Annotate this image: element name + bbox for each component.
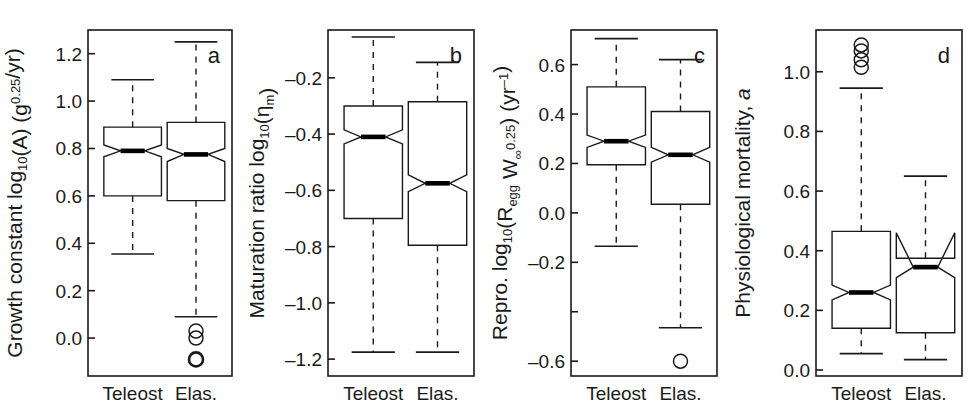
y-tick-label: 1.0 xyxy=(56,91,82,112)
y-tick-label: 0.8 xyxy=(56,138,82,159)
plot-frame xyxy=(88,30,232,376)
y-tick-label: 0.2 xyxy=(56,281,82,302)
x-category-label: Elas. xyxy=(659,383,701,404)
y-tick-label: 0.4 xyxy=(784,241,811,262)
panel-chart-b: –0.2–0.4–0.6–0.8–1.0–1.2TeleostElas.bMat… xyxy=(242,0,485,419)
y-tick-label: –1.0 xyxy=(285,293,322,314)
x-category-label: Elas. xyxy=(416,383,458,404)
boxplot-teleost xyxy=(104,80,162,254)
box-outline xyxy=(344,106,402,219)
panel-letter: b xyxy=(450,43,462,68)
x-category-label: Teleost xyxy=(343,383,404,404)
axis-title: Growth constant log10(A) (g0.25/yr) xyxy=(1,48,31,357)
box-outline xyxy=(104,127,162,196)
panel-c: 0.60.40.20.0–0.2–0.6TeleostElas.cRepro. … xyxy=(485,0,728,419)
y-tick-label: 0.6 xyxy=(56,186,82,207)
outlier-point xyxy=(189,352,203,366)
y-tick-label: 0.0 xyxy=(56,328,82,349)
y-tick-label: 0.2 xyxy=(784,300,810,321)
axis-title: Maturation ratio log10(ηm) xyxy=(245,88,278,319)
y-tick-label: 0.6 xyxy=(539,55,565,76)
panel-chart-a: 0.00.20.40.60.81.01.2TeleostElas.aGrowth… xyxy=(0,0,244,419)
y-tick-label: –0.2 xyxy=(528,252,565,273)
y-tick-label: 0.0 xyxy=(784,360,810,381)
y-tick-label: –0.6 xyxy=(528,351,565,372)
y-tick-label: 0.4 xyxy=(56,233,83,254)
boxplot-elas xyxy=(651,60,709,369)
box-outline xyxy=(896,233,954,333)
panel-chart-c: 0.60.40.20.0–0.2–0.6TeleostElas.cRepro. … xyxy=(485,0,728,419)
y-tick-label: –0.2 xyxy=(285,68,322,89)
y-tick-label: –0.6 xyxy=(285,180,322,201)
y-tick-label: –0.8 xyxy=(285,237,322,258)
plot-frame xyxy=(328,30,474,376)
boxplot-teleost xyxy=(344,37,402,352)
y-tick-label: 0.8 xyxy=(784,121,810,142)
y-axis-ticks: 0.00.20.40.60.81.0 xyxy=(784,62,823,381)
panel-b: –0.2–0.4–0.6–0.8–1.0–1.2TeleostElas.bMat… xyxy=(242,0,485,419)
box-outline xyxy=(651,112,709,205)
box-outline xyxy=(832,231,890,328)
x-category-label: Elas. xyxy=(904,383,946,404)
y-tick-label: 0.0 xyxy=(539,203,565,224)
panel-letter: c xyxy=(694,43,705,68)
y-tick-label: 0.2 xyxy=(539,153,565,174)
y-tick-label: –0.4 xyxy=(285,124,322,145)
panel-d: 0.00.20.40.60.81.0TeleostElas.dPhysiolog… xyxy=(728,0,973,419)
outlier-point xyxy=(674,354,688,368)
panel-letter: d xyxy=(938,43,950,68)
panel-chart-d: 0.00.20.40.60.81.0TeleostElas.dPhysiolog… xyxy=(728,0,973,419)
y-tick-label: 1.2 xyxy=(56,44,82,65)
x-category-label: Teleost xyxy=(103,383,164,404)
figure-root: 0.00.20.40.60.81.01.2TeleostElas.aGrowth… xyxy=(0,0,973,419)
y-axis-ticks: 0.00.20.40.60.81.01.2 xyxy=(56,44,95,349)
panel-letter: a xyxy=(208,43,221,68)
box-outline xyxy=(587,87,645,165)
y-tick-label: 0.6 xyxy=(784,181,810,202)
boxplot-teleost xyxy=(587,39,645,247)
axis-title: Repro. log10(Regg W∞0.25) (yr–1) xyxy=(488,66,525,340)
y-tick-label: 0.4 xyxy=(539,104,566,125)
axis-title: Physiological mortality, a xyxy=(731,88,754,318)
boxplot-elas xyxy=(896,176,954,359)
boxplot-elas xyxy=(167,42,225,367)
y-tick-label: –1.2 xyxy=(285,349,322,370)
plot-frame xyxy=(571,30,717,376)
box-outline xyxy=(167,122,225,200)
box-outline xyxy=(408,102,466,245)
panel-a: 0.00.20.40.60.81.01.2TeleostElas.aGrowth… xyxy=(0,0,244,419)
x-category-label: Elas. xyxy=(175,383,217,404)
boxplot-teleost xyxy=(832,38,890,354)
x-category-label: Teleost xyxy=(586,383,647,404)
boxplot-elas xyxy=(408,62,466,352)
plot-frame xyxy=(816,30,962,376)
x-category-label: Teleost xyxy=(831,383,892,404)
y-tick-label: 1.0 xyxy=(784,62,810,83)
